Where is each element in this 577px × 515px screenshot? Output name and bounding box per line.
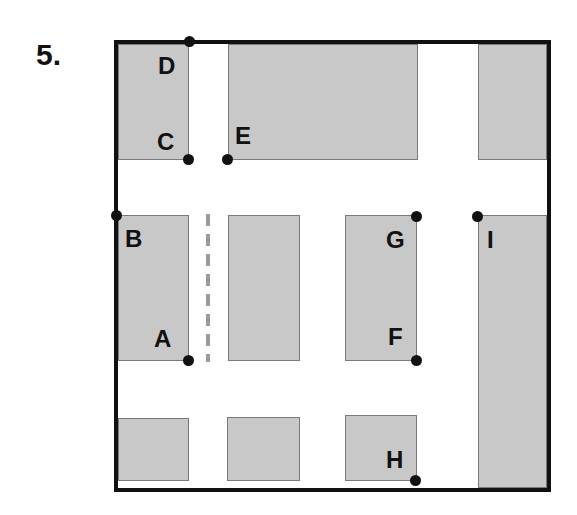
- point-d-label: D: [158, 54, 175, 78]
- block-bottom-2: [227, 417, 300, 481]
- point-b-label: B: [125, 227, 142, 251]
- block-top-right: [478, 44, 547, 160]
- block-mid-3: [345, 215, 417, 361]
- block-mid-2: [228, 215, 300, 361]
- point-a-dot: [183, 355, 194, 366]
- point-i-dot: [472, 211, 483, 222]
- point-e-label: E: [235, 124, 251, 148]
- dashed-line: [206, 214, 210, 362]
- block-right-tall: [478, 215, 547, 488]
- block-top-middle: [228, 44, 418, 160]
- point-c-dot: [183, 154, 194, 165]
- block-bottom-left: [118, 418, 189, 481]
- point-b-dot: [111, 210, 122, 221]
- point-a-label: A: [154, 327, 171, 351]
- point-h-dot: [410, 475, 421, 486]
- point-f-dot: [411, 355, 422, 366]
- point-h-label: H: [386, 448, 403, 472]
- point-i-label: I: [487, 228, 494, 252]
- point-e-dot: [222, 154, 233, 165]
- point-g-dot: [411, 211, 422, 222]
- point-g-label: G: [386, 228, 405, 252]
- block-top-left: [118, 44, 189, 160]
- block-bottom-3: [345, 415, 417, 481]
- point-c-label: C: [157, 130, 174, 154]
- point-f-label: F: [388, 325, 403, 349]
- point-d-dot: [184, 36, 195, 47]
- problem-number: 5.: [36, 38, 61, 72]
